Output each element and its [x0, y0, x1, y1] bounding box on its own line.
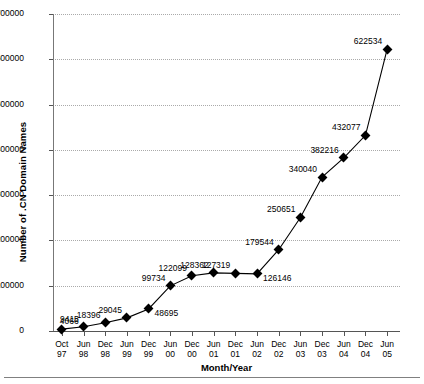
x-tick-mark [149, 332, 150, 336]
y-tick-label: 300000 [0, 189, 24, 199]
x-tick-mark [84, 332, 85, 336]
x-tick-mark [235, 332, 236, 336]
y-tick-label: 200000 [0, 234, 24, 244]
x-tick-mark [365, 332, 366, 336]
y-tick-label: 500000 [0, 99, 24, 109]
x-tick-mark [105, 332, 106, 336]
data-point-label: 250651 [267, 204, 295, 214]
x-tick-mark [192, 332, 193, 336]
data-point-label: 48695 [155, 308, 179, 318]
plot-area: 0100000200000300000400000500000600000700… [53, 14, 400, 331]
x-tick-mark [387, 332, 388, 336]
chart-figure: Number of .CN Domain Names 0100000200000… [0, 0, 424, 384]
x-tick-mark [127, 332, 128, 336]
x-tick-mark [279, 332, 280, 336]
y-tick-label: 400000 [0, 144, 24, 154]
x-tick-mark [322, 332, 323, 336]
data-point-label: 382216 [310, 145, 338, 155]
x-tick-mark [344, 332, 345, 336]
data-point-label: 622534 [354, 36, 382, 46]
data-point-label: 29045 [98, 305, 122, 315]
y-tick-label: 700000 [0, 8, 24, 18]
series-line [53, 14, 400, 331]
data-point-label: 127319 [202, 260, 230, 270]
y-tick-label: 0 [0, 325, 24, 335]
y-tick-label: 600000 [0, 53, 24, 63]
data-point-label: 179544 [245, 237, 273, 247]
y-tick-label: 100000 [0, 280, 24, 290]
data-point-label: 18396 [77, 310, 101, 320]
data-point-label: 126146 [263, 273, 291, 283]
x-tick-mark [300, 332, 301, 336]
data-point-label: 99734 [142, 273, 166, 283]
bottom-divider [4, 377, 420, 378]
x-tick-mark [257, 332, 258, 336]
x-tick-label: Jun05 [367, 339, 407, 359]
x-tick-mark [170, 332, 171, 336]
data-point-label: 432077 [332, 122, 360, 132]
data-point-label: 340040 [289, 164, 317, 174]
x-tick-mark [214, 332, 215, 336]
x-axis-title: Month/Year [53, 362, 400, 373]
